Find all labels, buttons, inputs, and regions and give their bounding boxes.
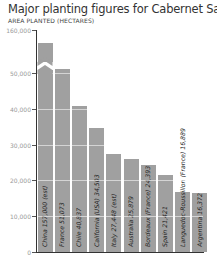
axis-break-icon [0,0,217,263]
